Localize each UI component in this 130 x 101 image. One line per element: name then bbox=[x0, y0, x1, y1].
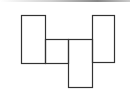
rectangles-diagram bbox=[0, 0, 130, 101]
rect-2 bbox=[46, 40, 69, 64]
rect-3 bbox=[69, 40, 93, 88]
rect-4 bbox=[93, 16, 115, 63]
rect-1 bbox=[22, 16, 46, 64]
